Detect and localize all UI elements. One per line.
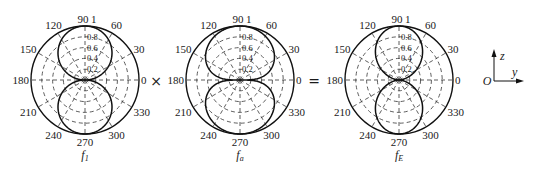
z-axis-label: z bbox=[499, 49, 505, 63]
radial-label: 0.4 bbox=[242, 53, 253, 63]
radial-label: 0.6 bbox=[401, 43, 412, 53]
angle-label-240: 240 bbox=[359, 129, 376, 141]
angle-label-240: 240 bbox=[200, 129, 217, 141]
angle-label-60: 60 bbox=[266, 19, 278, 31]
angle-label-90: 90 bbox=[233, 13, 245, 25]
angle-label-210: 210 bbox=[334, 106, 351, 118]
radial-label: 0.4 bbox=[401, 53, 412, 63]
angle-label-120: 120 bbox=[45, 19, 62, 31]
polar-plot-fE: 03060901201501802102402703003300.20.40.6… bbox=[327, 13, 465, 163]
angle-label-300: 300 bbox=[108, 129, 125, 141]
radial-label: 0.2 bbox=[242, 64, 253, 74]
radial-label: 0.8 bbox=[242, 32, 253, 42]
angle-label-0: 0 bbox=[296, 74, 302, 86]
y-axis-label: y bbox=[511, 65, 518, 79]
equals-operator: = bbox=[308, 73, 320, 89]
polar-plot-f1: 03060901201501802102402703003300.20.40.6… bbox=[13, 13, 151, 163]
angle-label-270: 270 bbox=[232, 136, 249, 148]
radial-label: 0.8 bbox=[87, 32, 98, 42]
radial-label: 0.6 bbox=[242, 43, 253, 53]
angle-label-90: 90 bbox=[78, 13, 90, 25]
angle-label-150: 150 bbox=[334, 43, 351, 55]
radial-label-max: 1 bbox=[91, 13, 97, 25]
plot-caption: fa bbox=[236, 148, 243, 163]
angle-label-210: 210 bbox=[175, 106, 192, 118]
radial-label: 0.4 bbox=[87, 53, 98, 63]
angle-label-30: 30 bbox=[448, 43, 460, 55]
angle-label-300: 300 bbox=[422, 129, 439, 141]
coordinate-axes-indicator: O z y bbox=[483, 49, 524, 88]
angle-spoke bbox=[240, 80, 267, 127]
angle-label-150: 150 bbox=[20, 43, 37, 55]
angle-label-0: 0 bbox=[455, 74, 461, 86]
times-operator: × bbox=[150, 73, 162, 89]
angle-label-120: 120 bbox=[359, 19, 376, 31]
angle-label-330: 330 bbox=[289, 106, 306, 118]
polar-pattern-figure: 03060901201501802102402703003300.20.40.6… bbox=[0, 0, 535, 172]
angle-label-60: 60 bbox=[111, 19, 123, 31]
angle-label-300: 300 bbox=[263, 129, 280, 141]
angle-label-180: 180 bbox=[327, 74, 344, 86]
angle-label-270: 270 bbox=[391, 136, 408, 148]
angle-label-30: 30 bbox=[289, 43, 301, 55]
radial-label: 0.6 bbox=[87, 43, 98, 53]
radial-label: 0.8 bbox=[401, 32, 412, 42]
plot-caption: fE bbox=[395, 148, 403, 163]
angle-label-240: 240 bbox=[45, 129, 62, 141]
angle-label-180: 180 bbox=[13, 74, 30, 86]
radial-label: 0.2 bbox=[87, 64, 98, 74]
angle-label-180: 180 bbox=[168, 74, 185, 86]
angle-spoke bbox=[213, 80, 240, 127]
angle-label-120: 120 bbox=[200, 19, 217, 31]
angle-label-330: 330 bbox=[448, 106, 465, 118]
origin-label: O bbox=[483, 74, 492, 88]
angle-label-90: 90 bbox=[392, 13, 404, 25]
angle-label-30: 30 bbox=[134, 43, 146, 55]
z-arrow-icon bbox=[492, 49, 497, 57]
polar-plot-fa: 03060901201501802102402703003300.20.40.6… bbox=[168, 13, 306, 163]
angle-label-270: 270 bbox=[77, 136, 94, 148]
angle-label-0: 0 bbox=[141, 74, 147, 86]
angle-label-210: 210 bbox=[20, 106, 37, 118]
angle-label-150: 150 bbox=[175, 43, 192, 55]
angle-label-60: 60 bbox=[425, 19, 437, 31]
radial-label-max: 1 bbox=[246, 13, 252, 25]
plot-caption: f1 bbox=[81, 148, 88, 163]
radial-label-max: 1 bbox=[405, 13, 411, 25]
angle-label-330: 330 bbox=[134, 106, 151, 118]
radial-label: 0.2 bbox=[401, 64, 412, 74]
y-arrow-icon bbox=[516, 79, 524, 84]
